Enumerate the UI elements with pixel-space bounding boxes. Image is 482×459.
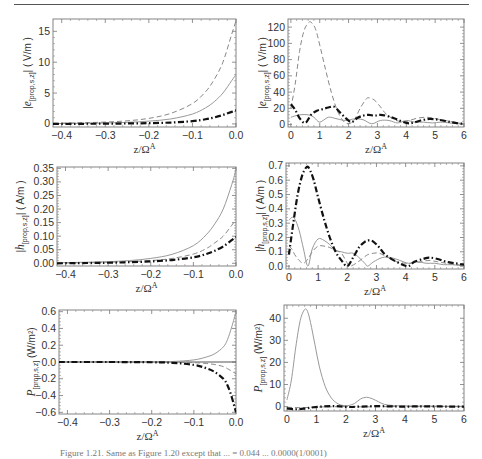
y-tick-label: 0.4 bbox=[41, 322, 56, 334]
plot-frame bbox=[53, 19, 236, 127]
y-tick-label: 0 bbox=[279, 118, 285, 130]
y-tick-label: 0.10 bbox=[34, 230, 55, 242]
x-tick-label: 2 bbox=[346, 129, 352, 141]
y-tick-label: 60 bbox=[273, 69, 285, 81]
x-tick-label: 6 bbox=[461, 129, 467, 141]
series-solid bbox=[57, 170, 236, 263]
x-tick-label: 2 bbox=[343, 413, 349, 425]
x-tick-label: 6 bbox=[461, 413, 467, 425]
x-tick-label: 6 bbox=[461, 271, 467, 283]
series-dashed bbox=[291, 22, 464, 124]
y-axis-label: |e[prop,s,z]| ( V/m ) bbox=[21, 37, 36, 109]
series-group bbox=[53, 21, 236, 124]
y-tick-label: 0.2 bbox=[268, 231, 283, 243]
y-tick-label: 0.7 bbox=[268, 159, 283, 171]
y-tick-label: 0.15 bbox=[34, 216, 55, 228]
x-tick-label: 4 bbox=[403, 271, 409, 283]
y-axis: 020406080100120 bbox=[267, 21, 464, 130]
y-tick-label: 0 bbox=[275, 400, 281, 412]
x-tick-label: 1 bbox=[315, 271, 321, 283]
x-tick-label: 0 bbox=[288, 129, 294, 141]
x-tick-label: −0.4 bbox=[55, 268, 76, 280]
x-tick-label: 3 bbox=[373, 413, 379, 425]
x-tick-label: 5 bbox=[432, 413, 438, 425]
series-group bbox=[291, 22, 464, 124]
x-tick-label: 4 bbox=[402, 413, 408, 425]
y-tick-label: 40 bbox=[273, 86, 285, 98]
x-axis: 0123456 bbox=[288, 19, 467, 141]
x-axis-label: z/ΩA bbox=[134, 142, 156, 155]
series-solid bbox=[53, 75, 236, 124]
y-axis-label: P[prop,s,z] (W/m²) bbox=[252, 323, 267, 393]
y-axis: 0.000.050.100.150.200.250.300.35 bbox=[34, 162, 236, 269]
y-tick-label: 15 bbox=[38, 25, 50, 37]
x-tick-label: −0.3 bbox=[99, 416, 120, 428]
chart-p_left: −0.4−0.3−0.2−0.10.0−0.6−0.4−0.20.00.20.4… bbox=[25, 305, 243, 442]
x-tick-label: −0.2 bbox=[140, 268, 161, 280]
chart-p_right: 0123456010203040z/ΩAP[prop,s,z] (W/m²) bbox=[252, 305, 467, 439]
chart-e_left: −0.4−0.3−0.2−0.10.0051015z/ΩA|e[prop,s,z… bbox=[21, 19, 243, 155]
y-tick-label: −0.6 bbox=[35, 406, 56, 418]
y-tick-label: 0.4 bbox=[268, 202, 283, 214]
x-tick-label: 0.0 bbox=[229, 129, 244, 141]
x-tick-label: 3 bbox=[375, 129, 381, 141]
x-tick-label: 0 bbox=[286, 271, 292, 283]
x-tick-label: −0.3 bbox=[95, 129, 116, 141]
y-tick-label: −0.4 bbox=[35, 389, 56, 401]
figure-caption: Figure 1.21. Same as Figure 1.20 except … bbox=[60, 448, 460, 459]
y-axis: 051015 bbox=[38, 25, 236, 130]
x-tick-label: −0.2 bbox=[141, 416, 162, 428]
x-tick-label: −0.1 bbox=[182, 129, 203, 141]
chart-h_right: 01234560.00.10.20.30.40.50.60.7z/ΩA|h[pr… bbox=[254, 159, 467, 297]
x-tick-label: −0.1 bbox=[183, 268, 204, 280]
series-solid bbox=[287, 309, 464, 407]
x-tick-label: 1 bbox=[317, 129, 323, 141]
x-tick-label: −0.1 bbox=[183, 416, 204, 428]
y-tick-label: 0.3 bbox=[268, 217, 283, 229]
x-tick-label: 0.0 bbox=[229, 268, 244, 280]
figure-panels: −0.4−0.3−0.2−0.10.0051015z/ΩA|e[prop,s,z… bbox=[0, 0, 482, 459]
y-tick-label: 0.00 bbox=[34, 257, 55, 269]
x-tick-label: 1 bbox=[314, 413, 320, 425]
x-tick-label: 0 bbox=[284, 413, 290, 425]
x-axis: 0123456 bbox=[286, 163, 467, 283]
y-tick-label: 0.1 bbox=[268, 245, 283, 257]
x-axis-label: z/ΩA bbox=[365, 142, 387, 155]
y-tick-label: 120 bbox=[267, 21, 285, 33]
x-tick-label: 3 bbox=[374, 271, 380, 283]
series-solid bbox=[59, 312, 236, 362]
y-tick-label: 0.05 bbox=[34, 243, 55, 255]
series-group bbox=[287, 309, 464, 409]
x-axis-label: z/ΩA bbox=[137, 429, 159, 442]
series-group bbox=[289, 167, 464, 267]
x-tick-label: −0.4 bbox=[57, 416, 78, 428]
y-tick-label: 80 bbox=[273, 53, 285, 65]
series-group bbox=[57, 170, 236, 264]
plot-frame bbox=[288, 19, 464, 127]
series-dashed bbox=[59, 362, 236, 374]
y-tick-label: 0.6 bbox=[268, 174, 283, 186]
series-dashed bbox=[57, 219, 236, 263]
y-tick-label: 10 bbox=[269, 378, 281, 390]
y-axis-label: |h[prop,s,z]| ( A/m ) bbox=[254, 180, 269, 252]
y-tick-label: 20 bbox=[269, 356, 281, 368]
y-tick-label: 0.2 bbox=[41, 339, 56, 351]
y-tick-label: 0.0 bbox=[268, 260, 283, 272]
x-axis-label: z/ΩA bbox=[136, 281, 158, 294]
x-tick-label: 5 bbox=[432, 271, 438, 283]
plot-frame bbox=[284, 305, 464, 411]
x-tick-label: −0.4 bbox=[51, 129, 72, 141]
x-tick-label: −0.3 bbox=[98, 268, 119, 280]
y-tick-label: 0.5 bbox=[268, 188, 283, 200]
x-tick-label: −0.2 bbox=[138, 129, 159, 141]
y-axis: 0.00.10.20.30.40.50.60.7 bbox=[268, 159, 464, 271]
y-tick-label: 40 bbox=[269, 312, 281, 324]
series-dashed bbox=[289, 246, 464, 267]
chart-e_right: 0123456020406080100120z/ΩA|e[prop,s,z]| … bbox=[256, 19, 467, 155]
series-dashdot bbox=[59, 362, 236, 412]
x-axis-label: z/ΩA bbox=[363, 426, 385, 439]
x-axis-label: z/ΩA bbox=[364, 284, 386, 297]
y-tick-label: 0.0 bbox=[41, 356, 56, 368]
chart-h_left: −0.4−0.3−0.2−0.10.00.000.050.100.150.200… bbox=[14, 162, 243, 294]
y-tick-label: 0.35 bbox=[34, 162, 55, 174]
